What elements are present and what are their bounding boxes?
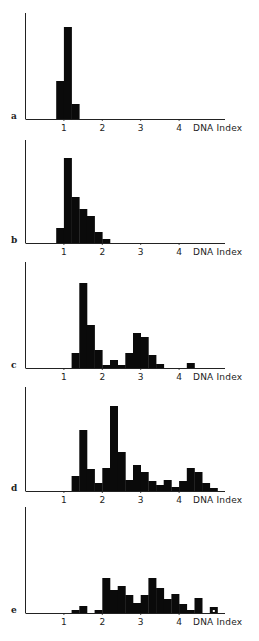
x-tick-label: 4 [176, 617, 182, 627]
histogram-bar [141, 595, 149, 613]
x-tick-label: 1 [61, 617, 67, 627]
panel-label: e [11, 605, 17, 615]
histogram-bar [171, 594, 179, 613]
histogram-bar [179, 604, 187, 613]
histogram-plot [0, 0, 259, 641]
histogram-bar [110, 590, 118, 613]
histogram-bar [95, 610, 103, 613]
histogram-bar [125, 595, 133, 613]
histogram-bar [133, 603, 141, 613]
histogram-bar [79, 606, 87, 613]
histogram-bar [195, 598, 203, 613]
histogram-bar [72, 610, 80, 613]
x-tick-label: 3 [138, 617, 144, 627]
histogram-bar [164, 599, 172, 613]
histogram-bar [187, 610, 195, 613]
x-tick-label: 2 [99, 617, 105, 627]
x-axis-title: DNA Index [193, 617, 242, 627]
histogram-panel-e: e1234DNA Index [0, 0, 259, 130]
histogram-bar [148, 578, 156, 613]
histogram-bar [156, 588, 164, 613]
histogram-bar [102, 578, 110, 613]
histogram-bar [118, 586, 126, 613]
bar-marker [213, 610, 215, 612]
